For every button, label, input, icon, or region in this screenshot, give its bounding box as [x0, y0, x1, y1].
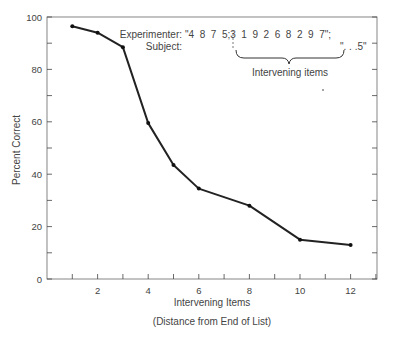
- dot-mark: [322, 89, 324, 91]
- x-tick-label: 4: [146, 285, 151, 296]
- y-axis-label: Percent Correct: [11, 115, 22, 185]
- plot-frame: [47, 17, 377, 279]
- y-tick-label: 0: [37, 274, 42, 285]
- x-tick-label: 8: [247, 285, 252, 296]
- data-point: [197, 187, 201, 191]
- y-tick-label: 60: [31, 116, 42, 127]
- y-tick-label: 40: [31, 169, 42, 180]
- data-point: [298, 238, 302, 242]
- subject-label: Subject:: [146, 41, 182, 52]
- data-point: [121, 45, 125, 49]
- data-point: [96, 31, 100, 35]
- chart: 02040608010024681012 Intervening Items (…: [0, 0, 393, 337]
- x-axis-sublabel: (Distance from End of List): [153, 316, 271, 327]
- x-tick-label: 2: [95, 285, 100, 296]
- ticks: 02040608010024681012: [26, 12, 377, 297]
- data-point: [349, 243, 353, 247]
- data-point: [172, 163, 176, 167]
- y-tick-label: 80: [31, 64, 42, 75]
- x-axis-label: Intervening Items: [174, 297, 251, 308]
- experimenter-sequence: "4 8 7 5;3 1 9 2 6 8 2 9 7";: [185, 29, 331, 40]
- data-point: [247, 204, 251, 208]
- data-point: [70, 24, 74, 28]
- data-point: [146, 121, 150, 125]
- axes: [47, 17, 377, 279]
- annotation: Experimenter: "4 8 7 5;3 1 9 2 6 8 2 9 7…: [120, 29, 367, 91]
- experimenter-label: Experimenter:: [120, 29, 182, 40]
- y-tick-label: 20: [31, 221, 42, 232]
- brace-label: Intervening items: [252, 67, 328, 78]
- x-tick-label: 6: [196, 285, 201, 296]
- data-line: [72, 26, 350, 245]
- x-tick-label: 10: [295, 285, 306, 296]
- x-tick-label: 12: [345, 285, 356, 296]
- brace-icon: [236, 50, 344, 64]
- y-tick-label: 100: [26, 12, 42, 23]
